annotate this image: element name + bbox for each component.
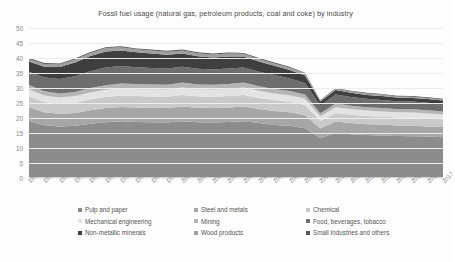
gridline [29,133,443,134]
chart-title: Fossil fuel usage (natural gas, petroleu… [0,9,451,18]
legend-swatch-icon [306,208,310,212]
legend-item[interactable]: Non-metallic minerals [78,229,194,236]
legend-item[interactable]: Chemical [306,206,339,213]
legend-item[interactable]: Mining [194,218,306,225]
gridline [29,103,443,104]
gridline [29,88,443,89]
gridline [29,73,443,74]
y-axis-tick-label: 30 [16,85,23,92]
y-axis-tick-label: 35 [16,70,23,77]
gridline [29,163,443,164]
y-axis-tick-label: 40 [16,55,23,62]
legend-item[interactable]: Steel and metals [194,206,306,213]
gridline [29,58,443,59]
y-axis-tick-label: 5 [19,160,23,167]
y-axis-tick-label: 25 [16,100,23,107]
legend-item[interactable]: Mechanical engineering [78,218,194,225]
legend-item[interactable]: Food, beverages, tobacco [306,218,386,225]
legend-label: Mining [201,218,220,225]
chart-legend: Pulp and paperSteel and metalsChemicalMe… [78,204,418,239]
legend-label: Pulp and paper [85,206,128,213]
legend-swatch-icon [194,219,198,223]
legend-item[interactable]: Wood products [194,229,306,236]
legend-label: Mechanical engineering [85,218,152,225]
y-axis-tick-label: 10 [16,145,23,152]
legend-item[interactable]: Pulp and paper [78,206,194,213]
y-axis-tick-label: 20 [16,115,23,122]
y-axis: 05101520253035404550 [0,22,26,184]
legend-swatch-icon [306,219,310,223]
legend-row: Non-metallic mineralsWood productsSmall … [78,227,418,239]
x-axis-tick-label: 2017 [441,171,455,185]
plot-area [29,28,443,178]
y-axis-tick-label: 0 [19,175,23,182]
legend-swatch-icon [78,231,82,235]
legend-swatch-icon [78,208,82,212]
gridline [29,43,443,44]
legend-swatch-icon [194,231,198,235]
legend-label: Wood products [201,229,243,236]
legend-label: Chemical [313,206,339,213]
y-axis-tick-label: 50 [16,25,23,32]
legend-label: Food, beverages, tobacco [313,218,386,225]
legend-label: Steel and metals [201,206,248,213]
legend-label: Small Industries and others [313,229,389,236]
legend-item[interactable]: Small Industries and others [306,229,389,236]
legend-swatch-icon [194,208,198,212]
y-axis-tick-label: 45 [16,40,23,47]
legend-row: Mechanical engineeringMiningFood, bevera… [78,216,418,228]
y-axis-tick-label: 15 [16,130,23,137]
legend-row: Pulp and paperSteel and metalsChemical [78,204,418,216]
legend-label: Non-metallic minerals [85,229,146,236]
gridline [29,118,443,119]
gridline [29,28,443,29]
gridline [29,148,443,149]
legend-swatch-icon [78,219,82,223]
legend-swatch-icon [306,231,310,235]
